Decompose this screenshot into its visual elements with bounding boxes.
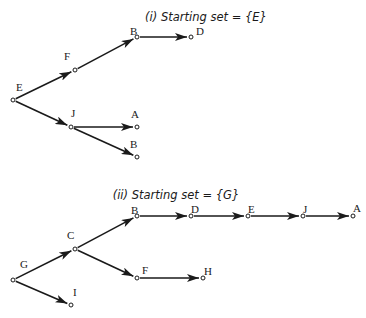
node-F xyxy=(73,68,77,72)
diagram-title: (ii) Starting set = {G} xyxy=(113,188,240,202)
node-D xyxy=(189,35,193,39)
node-I xyxy=(69,303,73,307)
node-B2 xyxy=(135,155,139,159)
node-A xyxy=(351,214,355,218)
edge-arrow-F-B1 xyxy=(78,39,134,69)
node-label: H xyxy=(204,265,212,277)
edge-arrow-C-B xyxy=(78,218,134,248)
edge-arrow-C-F xyxy=(78,250,134,276)
node-F xyxy=(135,276,139,280)
diagram-starting-set-g: (ii) Starting set = {G}GCBDEJAFHI xyxy=(11,188,361,307)
node-label: D xyxy=(196,25,204,37)
node-J xyxy=(69,125,73,129)
node-label: E xyxy=(16,81,23,93)
node-label: F xyxy=(64,50,70,62)
node-A xyxy=(135,125,139,129)
node-E xyxy=(11,98,15,102)
node-label: C xyxy=(67,229,74,241)
node-label: A xyxy=(353,202,361,214)
node-label: D xyxy=(191,203,199,215)
node-label: J xyxy=(71,107,76,119)
node-label: B xyxy=(131,204,138,216)
node-label: F xyxy=(142,264,148,276)
edge-arrow-E-J xyxy=(16,101,68,125)
reachability-diagrams: (i) Starting set = {E}EFBDJAB (ii) Start… xyxy=(0,0,366,318)
node-label: J xyxy=(303,203,308,215)
edge-arrow-J-B2 xyxy=(74,128,134,155)
node-label: B xyxy=(130,25,137,37)
edge-arrow-G-I xyxy=(16,281,68,303)
edge-arrow-E-F xyxy=(16,72,72,99)
node-G xyxy=(11,278,15,282)
node-label: G xyxy=(20,258,28,270)
node-label: B xyxy=(130,138,137,150)
node-C xyxy=(73,247,77,251)
node-label: A xyxy=(131,108,139,120)
node-label: I xyxy=(73,286,77,298)
diagram-title: (i) Starting set = {E} xyxy=(145,10,267,24)
diagram-starting-set-e: (i) Starting set = {E}EFBDJAB xyxy=(11,10,267,159)
node-label: E xyxy=(248,203,255,215)
